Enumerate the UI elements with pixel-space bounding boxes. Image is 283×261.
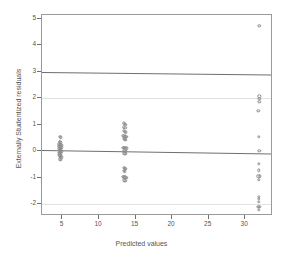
y-axis-tick — [37, 150, 41, 151]
data-point — [59, 136, 62, 139]
data-point — [257, 135, 260, 138]
y-axis-tick-label: -2 — [30, 200, 36, 207]
data-point — [124, 130, 127, 133]
gridline-2 — [42, 98, 271, 99]
x-axis-tick — [98, 215, 99, 219]
x-axis-tick-label: 15 — [131, 221, 138, 228]
y-axis-tick — [37, 177, 41, 178]
x-axis-tick-label: 20 — [167, 221, 174, 228]
y-axis-tick — [37, 71, 41, 72]
data-point — [59, 158, 62, 161]
data-point — [257, 100, 260, 103]
y-axis-tick — [37, 203, 41, 204]
upper-bound-line — [42, 72, 272, 76]
gridline-minus-2 — [42, 204, 271, 205]
residual-plot-figure: 543210-1-2 Externally Studentized residu… — [0, 0, 283, 261]
y-axis-tick — [37, 44, 41, 45]
x-axis-tick-label: 25 — [204, 221, 211, 228]
y-axis-tick — [37, 124, 41, 125]
y-axis-tick-label: -1 — [30, 173, 36, 180]
data-point — [124, 152, 127, 155]
data-point — [257, 162, 260, 165]
x-axis-tick — [171, 215, 172, 219]
data-point — [257, 169, 260, 172]
data-point — [257, 109, 260, 112]
data-point — [258, 149, 261, 152]
data-point — [124, 138, 127, 141]
y-axis-tick-label: 5 — [32, 15, 36, 22]
x-axis-tick — [244, 215, 245, 219]
data-point — [123, 179, 126, 182]
y-axis-tick-label: 1 — [32, 121, 36, 128]
data-point — [257, 178, 260, 181]
x-axis-tick — [135, 215, 136, 219]
x-axis-tick — [61, 215, 62, 219]
x-axis-tick-label: 10 — [94, 221, 101, 228]
y-axis-tick-label: 0 — [32, 147, 36, 154]
data-point — [258, 24, 261, 27]
y-axis-tick — [37, 18, 41, 19]
x-axis-title: Predicted values — [0, 240, 283, 247]
y-axis-tick-label: 2 — [32, 94, 36, 101]
plot-panel — [41, 14, 272, 215]
x-axis-tick-label: 30 — [241, 221, 248, 228]
data-point — [123, 170, 126, 173]
x-axis-tick-label: 5 — [60, 221, 64, 228]
y-axis-tick — [37, 97, 41, 98]
y-axis-title: Externally Studentized residuals — [15, 49, 22, 189]
zero-line — [42, 150, 272, 154]
data-point — [257, 208, 260, 211]
y-axis-tick-label: 4 — [32, 41, 36, 48]
y-axis-tick-label: 3 — [32, 68, 36, 75]
x-axis-tick — [208, 215, 209, 219]
